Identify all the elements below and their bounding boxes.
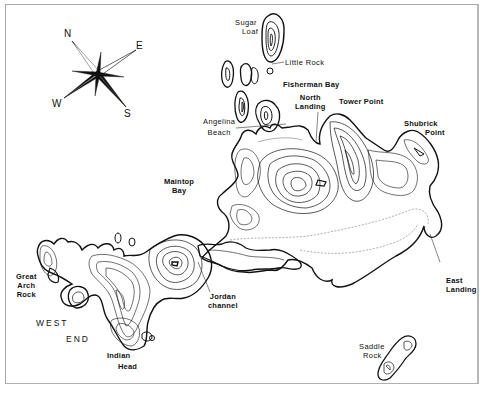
compass-east-label: E xyxy=(136,40,143,51)
compass-south-label: S xyxy=(124,108,131,119)
label-end: END xyxy=(66,335,90,344)
main-island xyxy=(202,114,442,287)
label-great-arch-rock: Great Arch Rock xyxy=(16,272,37,299)
compass-north-label: N xyxy=(64,28,71,39)
label-little-rock: Little Rock xyxy=(285,58,324,67)
island-contour-map: N E S W Sugar Loaf Little Rock Fisherman… xyxy=(0,0,486,395)
label-maintop-bay: Maintop Bay xyxy=(164,177,194,195)
label-tower-point: Tower Point xyxy=(339,97,384,106)
compass-rose-icon xyxy=(64,41,136,107)
label-angelina-beach: Angelina Beach xyxy=(203,117,235,137)
sugar-loaf-island xyxy=(262,14,284,62)
label-jordan-channel: Jordan channel xyxy=(208,292,238,310)
little-rock-islets xyxy=(222,61,273,122)
label-fisherman-bay: Fisherman Bay xyxy=(283,80,339,89)
label-east-landing: East Landing xyxy=(446,276,477,294)
label-indian-head: Indian Head xyxy=(107,351,137,371)
label-shubrick-point: Shubrick Point xyxy=(404,119,445,137)
label-north-landing: North Landing xyxy=(295,93,326,111)
compass-west-label: W xyxy=(52,98,61,109)
west-island xyxy=(37,233,211,350)
label-saddle-rock: Saddle Rock xyxy=(359,342,385,360)
label-west: WEST xyxy=(36,319,69,328)
label-sugar-loaf: Sugar Loaf xyxy=(235,18,258,36)
